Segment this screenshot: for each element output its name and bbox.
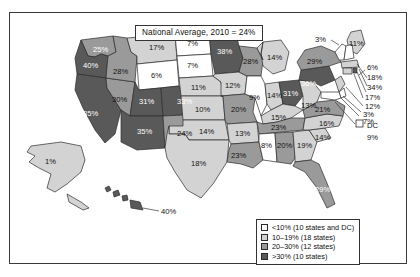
label-MI: 14% — [267, 53, 282, 62]
label-NH-callout: 6% — [367, 63, 378, 72]
label-NC: 16% — [319, 119, 334, 128]
label-DC-callout: DC — [367, 121, 378, 130]
label-AR: 13% — [235, 129, 250, 138]
label-KS: 10% — [195, 105, 210, 114]
state-FL[interactable] — [293, 160, 335, 208]
label-MO: 20% — [231, 105, 246, 114]
label-VT-callout: 3% — [315, 35, 326, 44]
label-AZ: 35% — [137, 127, 152, 136]
state-MA[interactable] — [341, 60, 359, 68]
figure-title: National Average, 2010 = 24% — [135, 25, 263, 41]
legend-swatch-2 — [261, 243, 268, 250]
legend-swatch-1 — [261, 234, 268, 241]
label-PA: 36% — [301, 79, 316, 88]
map-figure: National Average, 2010 = 24% — [0, 0, 420, 277]
state-RI[interactable] — [353, 68, 357, 73]
figure-title-text: National Average, 2010 = 24% — [142, 28, 256, 37]
label-OK: 14% — [199, 127, 214, 136]
label-WA: 25% — [93, 45, 108, 54]
label-CT-callout: 17% — [365, 93, 380, 102]
label-ID: 28% — [113, 67, 128, 76]
label-VA: 21% — [315, 105, 330, 114]
label-UT: 31% — [139, 97, 154, 106]
label-NY: 29% — [307, 57, 322, 66]
state-AK[interactable] — [27, 142, 89, 210]
label-MS: 8% — [261, 141, 272, 150]
label-WY: 6% — [151, 71, 162, 80]
label-FL: 29% — [315, 185, 330, 194]
label-WI: 28% — [243, 57, 258, 66]
state-HI[interactable] — [105, 186, 143, 210]
label-HI: 40% — [161, 207, 176, 216]
label-LA: 23% — [231, 151, 246, 160]
label-RI-callout: 34% — [367, 83, 382, 92]
map-legend: <10% (10 states and DC) 10–19% (18 state… — [256, 219, 360, 265]
legend-swatch-3 — [261, 253, 268, 260]
label-IA: 12% — [225, 81, 240, 90]
legend-label-2: 20–30% (12 states) — [272, 242, 335, 252]
label-OH: 31% — [283, 89, 298, 98]
label-GA: 19% — [297, 141, 312, 150]
label-KY: 15% — [271, 113, 286, 122]
label-CA: 35% — [83, 109, 98, 118]
legend-label-1: 10–19% (18 states) — [272, 233, 335, 243]
label-MT: 17% — [149, 43, 164, 52]
label-NE: 11% — [191, 83, 206, 92]
label-AK: 1% — [45, 157, 56, 166]
label-AL: 20% — [277, 141, 292, 150]
legend-swatch-0 — [261, 224, 268, 231]
label-SD: 7% — [187, 61, 198, 70]
label-SC: 14% — [315, 133, 330, 142]
label-NV: 30% — [112, 95, 127, 104]
legend-row-3[interactable]: >30% (10 states) — [261, 252, 354, 262]
legend-row-1[interactable]: 10–19% (18 states) — [261, 233, 354, 243]
state-CT[interactable] — [343, 68, 352, 74]
label-IN: 14% — [267, 91, 282, 100]
label-ME: 11% — [349, 39, 364, 48]
label-CO: 33% — [177, 97, 192, 106]
legend-label-3: >30% (10 states) — [272, 252, 327, 262]
label-WV: 13% — [301, 101, 316, 110]
label-MA-callout: 18% — [367, 73, 382, 82]
legend-label-0: <10% (10 states and DC) — [272, 223, 354, 233]
legend-row-2[interactable]: 20–30% (12 states) — [261, 242, 354, 252]
legend-row-0[interactable]: <10% (10 states and DC) — [261, 223, 354, 233]
label-DC-value: 9% — [367, 133, 378, 142]
label-TX: 18% — [191, 159, 206, 168]
label-OR: 40% — [83, 61, 98, 70]
state-MD[interactable] — [321, 92, 341, 100]
label-NM: 24% — [177, 129, 192, 138]
label-IL: 9% — [249, 93, 260, 102]
label-TN: 23% — [271, 123, 286, 132]
label-MN: 38% — [217, 47, 232, 56]
dc-swatch — [356, 120, 363, 127]
